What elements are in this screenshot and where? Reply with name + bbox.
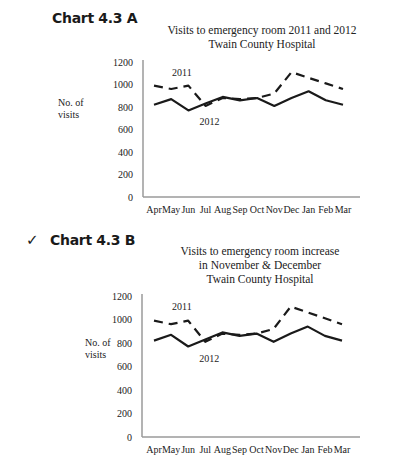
- chart-b-xtick-label: Jul: [199, 444, 211, 455]
- chart-b-annotation-2012: 2012: [199, 353, 219, 364]
- chart-b-xtick-label: Nov: [265, 444, 282, 455]
- chart-b-plot: 020040060080010001200No. ofvisitsAprMayJ…: [0, 0, 408, 462]
- chart-b-xtick-label: Oct: [249, 444, 264, 455]
- chart-b-y-axis-label: No. of: [85, 337, 111, 348]
- chart-b-ytick-label: 600: [117, 361, 132, 372]
- chart-b-xtick-label: Aug: [214, 444, 231, 455]
- chart-b-xtick-label: Mar: [334, 444, 351, 455]
- chart-b-xtick-label: Feb: [317, 444, 332, 455]
- chart-b-ytick-label: 400: [117, 385, 132, 396]
- chart-b-xtick-label: Jan: [301, 444, 314, 455]
- chart-b-ytick-label: 200: [117, 408, 132, 419]
- chart-b-ytick-label: 800: [117, 338, 132, 349]
- chart-b-ytick-label: 0: [127, 432, 132, 443]
- chart-b-xtick-label: Jun: [181, 444, 195, 455]
- chart-b-y-axis-label: visits: [85, 349, 106, 360]
- chart-b-xtick-label: Apr: [146, 444, 162, 455]
- chart-b-ytick-label: 1000: [112, 314, 132, 325]
- chart-b-series-2012-line: [154, 327, 342, 347]
- chart-b-xtick-label: May: [162, 444, 180, 455]
- chart-b-xtick-label: Sep: [232, 444, 247, 455]
- chart-b-xtick-label: Dec: [283, 444, 300, 455]
- chart-b-ytick-label: 1200: [112, 291, 132, 302]
- chart-b-annotation-2011: 2011: [172, 301, 192, 312]
